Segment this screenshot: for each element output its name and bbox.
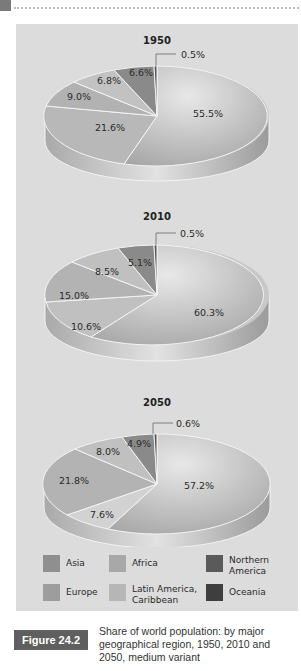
- swatch-oceania: [206, 584, 223, 601]
- slice-label-oceania: 0.6%: [176, 418, 200, 429]
- legend-label: Oceania: [229, 584, 266, 598]
- pie-2010: 2010 60.3% 10.6% 15.0% 8.5% 5.1% 0.5%: [16, 189, 298, 369]
- slice-label-africa: 15.0%: [59, 290, 89, 301]
- legend-item-northern-america: Northern America: [206, 555, 284, 577]
- legend-item-europe: Europe: [43, 584, 98, 601]
- figure-caption-text: Share of world population: by major geog…: [99, 625, 299, 664]
- figure-number-badge: Figure 24.2: [14, 630, 88, 650]
- legend-label: Asia: [66, 555, 85, 569]
- slice-label-namerica: 5.1%: [128, 257, 152, 268]
- slice-label-europe: 10.6%: [71, 321, 101, 332]
- swatch-latin-america: [109, 584, 126, 601]
- legend-label: Northern America: [229, 555, 284, 577]
- slice-label-africa: 9.0%: [67, 91, 91, 102]
- slice-label-asia: 57.2%: [184, 480, 214, 491]
- dotted-rule: [14, 7, 299, 9]
- swatch-northern-america: [206, 555, 223, 572]
- legend-item-africa: Africa: [109, 555, 158, 572]
- pie-chart-2010: [16, 189, 298, 369]
- swatch-asia: [43, 555, 60, 572]
- pie-2050: 2050 57.2% 7.6% 21.8% 8.0% 4.9% 0.6%: [16, 362, 298, 547]
- pie-chart-1950: [16, 24, 298, 194]
- swatch-africa: [109, 555, 126, 572]
- chart-panel: 1950 55.5% 21.6% 9.0% 6.8% 6.6%: [16, 24, 298, 611]
- swatch-europe: [43, 584, 60, 601]
- slice-label-oceania: 0.5%: [180, 228, 204, 239]
- figure-caption: Figure 24.2 Share of world population: b…: [0, 612, 301, 671]
- legend-item-latin-america: Latin America, Caribbean: [109, 584, 202, 606]
- slice-label-asia: 60.3%: [194, 307, 224, 318]
- slice-label-namerica: 4.9%: [127, 438, 151, 449]
- pie-chart-2050: [16, 362, 298, 547]
- slice-label-africa: 21.8%: [59, 475, 89, 486]
- slice-label-latam: 8.5%: [95, 266, 119, 277]
- legend-label: Africa: [132, 555, 158, 569]
- slice-label-europe: 21.6%: [95, 122, 125, 133]
- slice-label-namerica: 6.6%: [129, 67, 153, 78]
- slice-label-latam: 8.0%: [96, 446, 120, 457]
- corner-marker: [0, 0, 11, 11]
- legend-item-oceania: Oceania: [206, 584, 266, 601]
- slice-label-europe: 7.6%: [90, 509, 114, 520]
- slice-label-oceania: 0.5%: [181, 49, 205, 60]
- pie-1950: 1950 55.5% 21.6% 9.0% 6.8% 6.6%: [16, 24, 298, 194]
- slice-label-asia: 55.5%: [193, 108, 223, 119]
- legend-item-asia: Asia: [43, 555, 85, 572]
- slice-label-latam: 6.8%: [97, 75, 121, 86]
- legend-label: Latin America, Caribbean: [132, 584, 202, 606]
- legend-label: Europe: [66, 584, 98, 598]
